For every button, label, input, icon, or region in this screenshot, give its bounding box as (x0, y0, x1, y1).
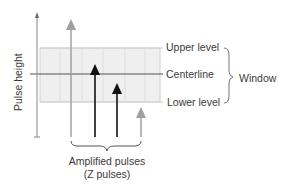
centerline-label: Centerline (166, 69, 214, 80)
window-label: Window (239, 73, 276, 84)
window-brace (224, 48, 233, 103)
pulse-arrow-3 (112, 83, 122, 137)
caption-line-1: Amplified pulses (52, 155, 162, 168)
lower-level-label: Lower level (167, 97, 220, 108)
caption-line-2: (Z pulses) (52, 168, 162, 181)
pulse-arrow-4 (136, 107, 146, 137)
pulses-brace (71, 141, 141, 151)
upper-level-label: Upper level (166, 42, 219, 53)
pulses-caption: Amplified pulses (Z pulses) (52, 155, 162, 181)
y-axis-arrow-icon (35, 12, 39, 18)
y-axis-label: Pulse height (13, 53, 24, 111)
